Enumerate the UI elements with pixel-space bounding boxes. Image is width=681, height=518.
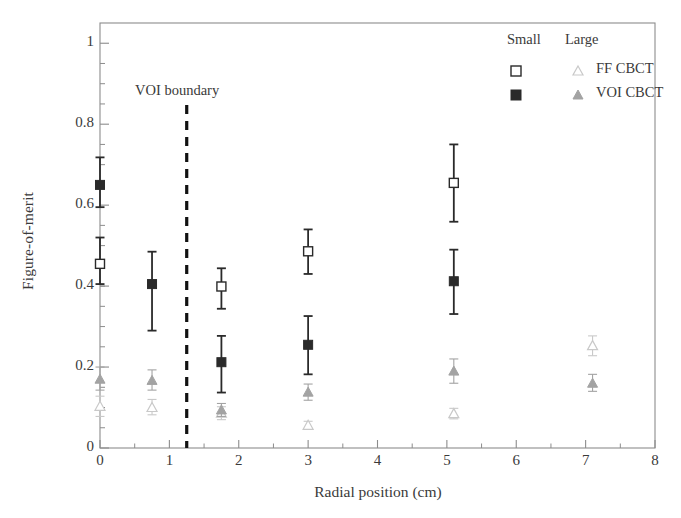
marker-open-square xyxy=(96,259,105,268)
marker-open-square xyxy=(217,282,226,291)
marker-filled-square xyxy=(449,277,458,286)
marker-open-triangle xyxy=(588,341,598,350)
y-tick-label: 1 xyxy=(46,33,94,50)
x-tick-label: 5 xyxy=(432,452,462,469)
marker-open-triangle xyxy=(449,409,459,418)
marker-filled-square xyxy=(96,180,105,189)
legend-label-voi-cbct: VOI CBCT xyxy=(596,84,663,101)
y-tick-label: 0 xyxy=(46,438,94,455)
marker-filled-triangle xyxy=(303,387,313,396)
x-tick-label: 7 xyxy=(571,452,601,469)
legend-header-large: Large xyxy=(565,31,599,48)
figure-container: Figure-of-merit Radial position (cm) 012… xyxy=(0,0,681,518)
legend-header-small: Small xyxy=(507,31,541,48)
plot-area xyxy=(0,0,681,518)
y-tick-label: 0.8 xyxy=(46,114,94,131)
legend-marker-large-voi xyxy=(573,90,583,99)
legend-marker-large-ff xyxy=(573,66,583,75)
marker-open-triangle xyxy=(147,403,157,412)
y-tick-label: 0.4 xyxy=(46,276,94,293)
y-tick-label: 0.6 xyxy=(46,195,94,212)
x-tick-label: 6 xyxy=(501,452,531,469)
marker-filled-triangle xyxy=(95,374,105,383)
legend-marker-small-ff xyxy=(511,66,521,76)
x-tick-label: 2 xyxy=(224,452,254,469)
marker-open-square xyxy=(304,247,313,256)
legend xyxy=(511,66,583,100)
voi-boundary-annotation: VOI boundary xyxy=(135,82,219,99)
x-tick-label: 8 xyxy=(640,452,670,469)
marker-filled-square xyxy=(217,358,226,367)
legend-marker-small-voi xyxy=(511,90,521,100)
marker-open-square xyxy=(449,178,458,187)
marker-filled-square xyxy=(304,340,313,349)
x-tick-label: 4 xyxy=(363,452,393,469)
marker-filled-triangle xyxy=(588,378,598,387)
marker-filled-triangle xyxy=(147,375,157,384)
x-tick-label: 1 xyxy=(154,452,184,469)
x-tick-label: 3 xyxy=(293,452,323,469)
marker-filled-triangle xyxy=(449,366,459,375)
marker-open-triangle xyxy=(95,401,105,410)
marker-filled-square xyxy=(148,280,157,289)
legend-label-ff-cbct: FF CBCT xyxy=(596,60,654,77)
y-tick-label: 0.2 xyxy=(46,357,94,374)
